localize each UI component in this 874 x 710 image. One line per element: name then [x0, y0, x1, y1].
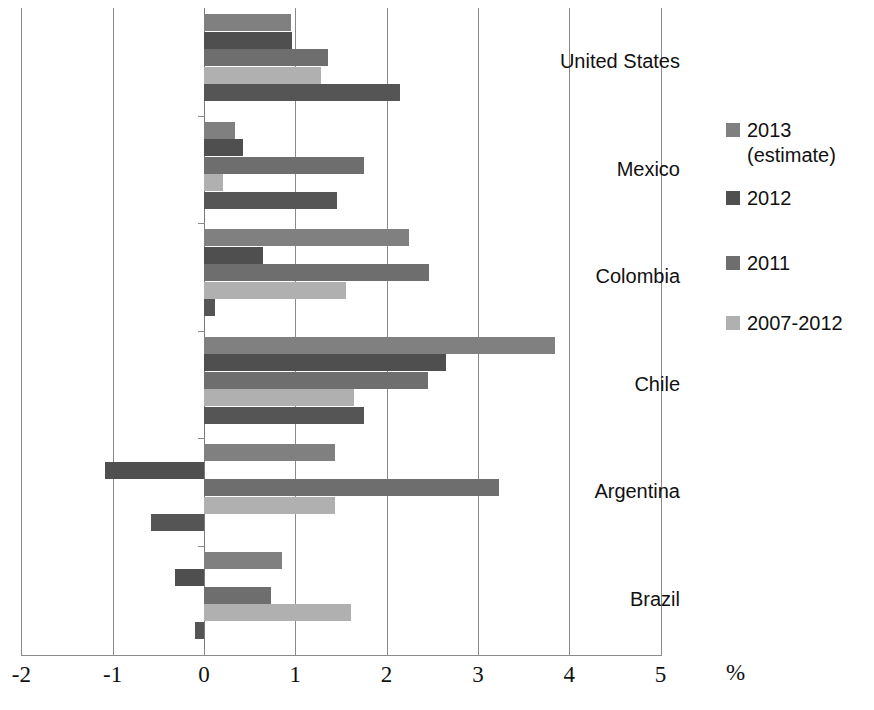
gridline [387, 8, 388, 656]
bar-chart: United StatesMexicoColombiaChileArgentin… [0, 0, 874, 710]
category-tick [198, 546, 205, 547]
bar [105, 462, 204, 479]
legend-item[interactable]: 2011 [726, 251, 790, 276]
bar [204, 122, 235, 139]
bar [204, 587, 271, 604]
bar [204, 67, 321, 84]
bar [204, 49, 328, 66]
bar [204, 299, 215, 316]
legend-label: 2007-2012 [747, 311, 843, 336]
bar [204, 389, 354, 406]
bar [204, 604, 351, 621]
x-axis-tick-label: -1 [93, 662, 133, 688]
category-tick [198, 438, 205, 439]
bar [204, 407, 364, 424]
legend-label: 2011 [747, 251, 790, 276]
bar [204, 32, 292, 49]
bar [204, 479, 499, 496]
category-label: United States [490, 50, 680, 73]
gridline [478, 8, 479, 656]
bar [175, 569, 204, 586]
category-tick [198, 116, 205, 117]
bar [195, 622, 204, 639]
bar [204, 264, 429, 281]
bar [204, 229, 409, 246]
bar [204, 192, 337, 209]
legend-label: 2013 (estimate) [747, 118, 836, 168]
category-label: Brazil [490, 588, 680, 611]
bar [204, 497, 335, 514]
bar [204, 157, 364, 174]
gridline [295, 8, 296, 656]
bar [204, 84, 400, 101]
x-axis-tick-label: 3 [458, 662, 498, 688]
legend-label: 2012 [747, 186, 792, 211]
bar [204, 354, 446, 371]
x-axis-tick-label: 0 [184, 662, 224, 688]
bar [204, 552, 282, 569]
legend-swatch-icon [726, 123, 740, 137]
category-label: Colombia [490, 265, 680, 288]
category-tick [198, 223, 205, 224]
x-axis-tick-label: 2 [367, 662, 407, 688]
bar [204, 139, 243, 156]
legend-swatch-icon [726, 316, 740, 330]
legend-swatch-icon [726, 191, 740, 205]
gridline [21, 8, 22, 656]
x-axis-tick-label: 4 [549, 662, 589, 688]
bar [204, 247, 263, 264]
category-label: Argentina [490, 480, 680, 503]
category-tick [198, 331, 205, 332]
legend-item[interactable]: 2007-2012 [726, 311, 843, 336]
bar [204, 174, 223, 191]
x-axis-tick-label: -2 [1, 662, 41, 688]
gridline [661, 8, 662, 656]
gridline [569, 8, 570, 656]
bar [204, 14, 291, 31]
bar [204, 372, 428, 389]
bar [204, 337, 555, 354]
bar [204, 444, 335, 461]
bar [204, 282, 346, 299]
gridline [113, 8, 114, 656]
legend-item[interactable]: 2012 [726, 186, 792, 211]
legend-item[interactable]: 2013 (estimate) [726, 118, 836, 168]
plot-area: United StatesMexicoColombiaChileArgentin… [0, 8, 680, 656]
category-label: Chile [490, 373, 680, 396]
x-axis-tick-label: 5 [641, 662, 681, 688]
legend-swatch-icon [726, 256, 740, 270]
x-axis-line [21, 655, 661, 656]
category-label: Mexico [490, 158, 680, 181]
x-axis-tick-label: 1 [275, 662, 315, 688]
bar [151, 514, 204, 531]
axis-unit-label: % [726, 660, 745, 686]
